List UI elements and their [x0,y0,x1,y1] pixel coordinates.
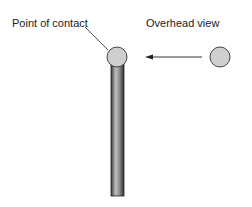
point-of-contact-label: Point of contact [12,17,88,29]
rod [111,64,124,196]
leader-line [85,27,108,50]
arrow-head-icon [145,55,153,60]
overhead-view-label: Overhead view [146,17,219,29]
diagram-canvas: Point of contact Overhead view [0,0,252,207]
incoming-ball [210,47,230,67]
contact-ball [107,47,127,67]
